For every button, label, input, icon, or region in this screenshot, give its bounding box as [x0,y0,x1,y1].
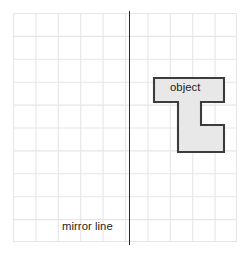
mirror-line-label: mirror line [62,220,113,232]
mirror-line [129,11,130,245]
object-label: object [170,81,200,93]
figure-canvas: mirror line object [0,0,250,256]
